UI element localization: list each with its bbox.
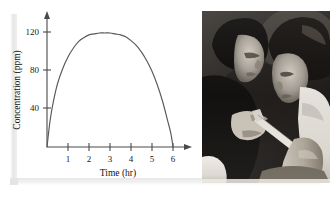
x-axis <box>47 144 192 150</box>
x-tick-label-2: 2 <box>87 154 92 164</box>
x-tick-label-1: 1 <box>66 154 71 164</box>
figure-root: 120 80 40 Concentration (ppm) 1 2 3 4 5 … <box>0 0 335 199</box>
x-tick-label-4: 4 <box>129 154 134 164</box>
y-tick-label-80: 80 <box>30 65 40 75</box>
x-axis-title: Time (hr) <box>100 168 136 179</box>
y-tick-label-120: 120 <box>26 27 40 37</box>
photo-bottom-edge <box>202 179 330 183</box>
y-tick-label-40: 40 <box>30 103 40 113</box>
concentration-curve <box>47 33 173 147</box>
x-tick-label-6: 6 <box>171 154 176 164</box>
x-tick-label-5: 5 <box>150 154 155 164</box>
y-axis-title: Concentration (ppm) <box>12 50 23 129</box>
concentration-time-chart: 120 80 40 Concentration (ppm) 1 2 3 4 5 … <box>0 0 200 199</box>
x-tick-label-3: 3 <box>108 154 113 164</box>
injection-photograph <box>202 11 330 183</box>
photograph-svg <box>202 11 330 183</box>
photo-grain-overlay <box>202 11 330 183</box>
chart-svg: 120 80 40 Concentration (ppm) 1 2 3 4 5 … <box>0 0 200 199</box>
